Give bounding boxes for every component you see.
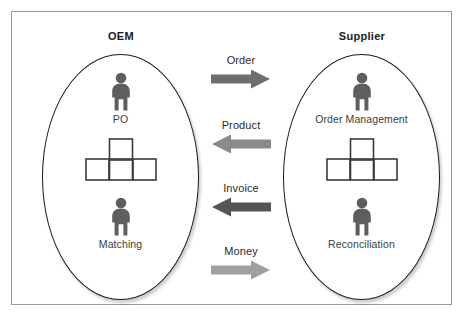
flow-order: Order xyxy=(198,54,284,89)
supplier-node-reconciliation: Reconciliation xyxy=(283,197,440,250)
arrow-right-icon xyxy=(211,260,271,280)
oem-title: OEM xyxy=(41,30,201,42)
oem-node-po-label: PO xyxy=(42,113,199,125)
person-icon xyxy=(108,197,134,237)
flow-product-label: Product xyxy=(198,119,284,131)
flow-invoice-label: Invoice xyxy=(198,182,284,194)
supplier-node-order-management: Order Management xyxy=(283,72,440,125)
oem-node-matching: Matching xyxy=(42,197,199,250)
diagram-frame: OEM Supplier PO xyxy=(11,11,452,305)
flow-order-label: Order xyxy=(198,54,284,66)
flow-money-label: Money xyxy=(198,245,284,257)
supplier-title: Supplier xyxy=(282,30,442,42)
supplier-boundary: Order Management Reconciliation xyxy=(283,54,440,300)
oem-blocks xyxy=(42,138,199,182)
flow-money: Money xyxy=(198,245,284,280)
supplier-blocks xyxy=(283,138,440,182)
supplier-node-reconciliation-label: Reconciliation xyxy=(283,238,440,250)
oem-node-matching-label: Matching xyxy=(42,238,199,250)
person-icon xyxy=(108,72,134,112)
person-icon xyxy=(349,72,375,112)
flow-invoice: Invoice xyxy=(198,182,284,217)
arrow-right-icon xyxy=(211,69,271,89)
person-icon xyxy=(349,197,375,237)
oem-boundary: PO Matching xyxy=(42,54,199,300)
blocks-icon xyxy=(84,138,158,182)
arrow-left-icon xyxy=(211,197,271,217)
flow-product: Product xyxy=(198,119,284,154)
arrow-left-icon xyxy=(211,134,271,154)
supplier-node-order-management-label: Order Management xyxy=(283,113,440,125)
oem-node-po: PO xyxy=(42,72,199,125)
flow-column: Order Product Invoice Money xyxy=(198,54,284,300)
blocks-icon xyxy=(325,138,399,182)
diagram-canvas: OEM Supplier PO xyxy=(0,0,463,314)
